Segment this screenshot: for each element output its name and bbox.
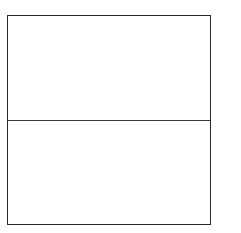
bottom-panel — [8, 121, 210, 224]
top-panel — [8, 16, 210, 120]
diagram-frame — [7, 15, 211, 225]
